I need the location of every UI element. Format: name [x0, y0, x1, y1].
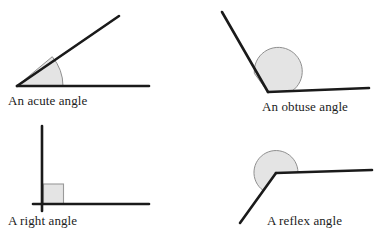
right-angle-marker [44, 184, 64, 204]
angles-diagram-canvas [0, 0, 379, 243]
obtuse-angle-marker [254, 47, 302, 92]
caption-acute-angle: An acute angle [8, 93, 87, 109]
obtuse-upper-left-ray [222, 12, 268, 92]
caption-right-angle: A right angle [8, 213, 77, 229]
panel-right [33, 126, 149, 211]
panel-obtuse [222, 12, 369, 92]
angles-figure: An acute angle An obtuse angle A right a… [0, 0, 379, 243]
panel-acute [17, 16, 149, 86]
caption-obtuse-angle: An obtuse angle [262, 99, 348, 115]
acute-upper-ray [17, 16, 119, 86]
reflex-angle-marker [254, 151, 298, 191]
caption-reflex-angle: A reflex angle [267, 213, 342, 229]
